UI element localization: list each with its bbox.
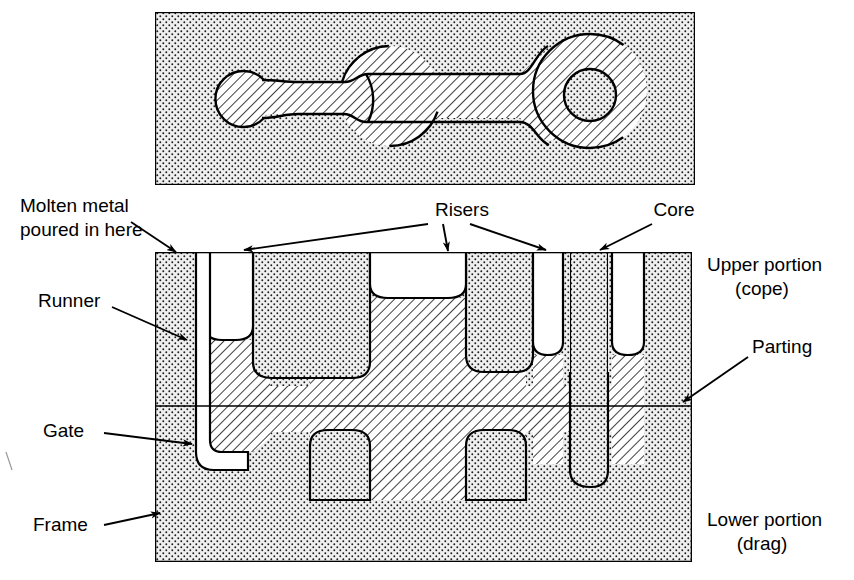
runner-label: Runner (38, 290, 101, 311)
scan-artifacts (6, 452, 12, 470)
upper-portion-label-line2: (cope) (735, 278, 789, 299)
casting-mold-figure: Molten metal poured in here Runner Gate … (0, 0, 854, 580)
molten-metal-label-line2: poured in here (20, 219, 143, 240)
riser-center (370, 252, 466, 298)
top-view-group (155, 12, 695, 185)
molten-metal-label-line1: Molten metal (20, 195, 129, 216)
riser-far-right (612, 252, 644, 355)
lower-portion-label-line2: (drag) (737, 533, 788, 554)
risers-label: Risers (435, 199, 489, 220)
riser-left (205, 252, 253, 340)
frame-label: Frame (33, 514, 88, 535)
core-column (570, 252, 608, 487)
gate-label: Gate (43, 420, 84, 441)
frame-arrow (104, 513, 160, 525)
parting-arrow (683, 357, 748, 402)
risers-arrow-3 (470, 224, 546, 250)
parting-label: Parting (752, 336, 812, 357)
risers-arrow-1 (244, 224, 428, 250)
core-arrow (600, 224, 652, 250)
upper-portion-label-line1: Upper portion (707, 254, 822, 275)
risers-arrow-2 (443, 224, 448, 251)
lower-portion-label-line1: Lower portion (707, 509, 822, 530)
riser-right (533, 252, 563, 355)
core-label: Core (653, 199, 694, 220)
section-view-group (155, 252, 692, 562)
